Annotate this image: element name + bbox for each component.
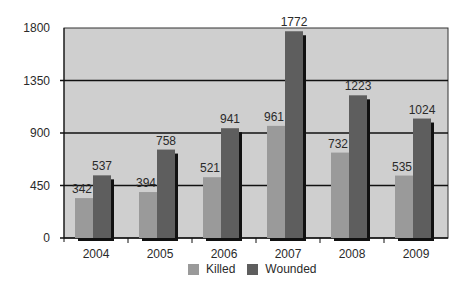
data-label: 758 xyxy=(156,134,176,148)
legend-swatch-wounded xyxy=(247,264,258,275)
y-tick-label: 1800 xyxy=(23,21,50,35)
data-label: 521 xyxy=(200,161,220,175)
bar-wounded xyxy=(349,95,367,238)
legend: Killed Wounded xyxy=(188,262,329,276)
x-tick-label: 2005 xyxy=(147,247,174,261)
x-tick-label: 2007 xyxy=(275,247,302,261)
data-label: 1772 xyxy=(281,15,308,29)
y-tick-label: 0 xyxy=(43,231,50,245)
y-tick-label: 450 xyxy=(30,179,50,193)
plot-area xyxy=(60,28,448,238)
data-label: 1223 xyxy=(345,79,372,93)
bar-killed xyxy=(203,177,221,238)
bar-killed xyxy=(139,192,157,238)
data-label: 394 xyxy=(136,176,156,190)
bar-wounded xyxy=(93,175,111,238)
bar-wounded xyxy=(413,119,431,238)
legend-label-killed: Killed xyxy=(206,262,235,276)
x-axis: 200420052006200720082009 xyxy=(60,238,448,261)
bar-wounded xyxy=(221,128,239,238)
bar-killed xyxy=(267,126,285,238)
data-label: 537 xyxy=(92,159,112,173)
bar-chart: 045090013501800 200420052006200720082009… xyxy=(0,0,471,293)
bar-killed xyxy=(395,176,413,238)
legend-label-wounded: Wounded xyxy=(265,262,316,276)
legend-swatch-killed xyxy=(188,264,199,275)
x-tick-label: 2008 xyxy=(339,247,366,261)
bar-killed xyxy=(331,153,349,238)
data-label: 961 xyxy=(264,110,284,124)
y-axis: 045090013501800 xyxy=(23,21,64,245)
data-label: 1024 xyxy=(409,103,436,117)
data-label: 732 xyxy=(328,137,348,151)
x-tick-label: 2009 xyxy=(403,247,430,261)
x-tick-label: 2006 xyxy=(211,247,238,261)
bar-killed xyxy=(75,198,93,238)
y-tick-label: 1350 xyxy=(23,74,50,88)
x-tick-label: 2004 xyxy=(83,247,110,261)
data-label: 342 xyxy=(72,182,92,196)
bar-wounded xyxy=(285,31,303,238)
bar-wounded xyxy=(157,150,175,238)
legend-item-wounded: Wounded xyxy=(247,262,316,276)
data-label: 941 xyxy=(220,112,240,126)
data-label: 535 xyxy=(392,160,412,174)
y-tick-label: 900 xyxy=(30,126,50,140)
legend-item-killed: Killed xyxy=(188,262,235,276)
